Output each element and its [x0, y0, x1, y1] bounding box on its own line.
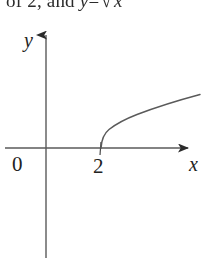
origin-label: 0 — [12, 152, 23, 177]
radical-symbol: √ — [101, 0, 112, 11]
top-text-equals: = — [88, 0, 99, 11]
y-axis-label: y — [24, 29, 33, 52]
sqrt-curve — [101, 95, 200, 149]
top-text-radical: √x — [99, 0, 125, 12]
top-text-prefix: of 2, and — [6, 0, 80, 11]
clipped-top-text-region: of 2, and y=√x — [0, 0, 215, 13]
figure-page: of 2, and y=√x y x 0 — [0, 0, 215, 260]
x-axis-label: x — [189, 153, 198, 176]
radicand: x — [112, 0, 126, 12]
x-tick-label-2: 2 — [93, 154, 104, 179]
clipped-top-text: of 2, and y=√x — [6, 0, 215, 13]
graph-figure: y x 0 2 — [0, 13, 215, 260]
